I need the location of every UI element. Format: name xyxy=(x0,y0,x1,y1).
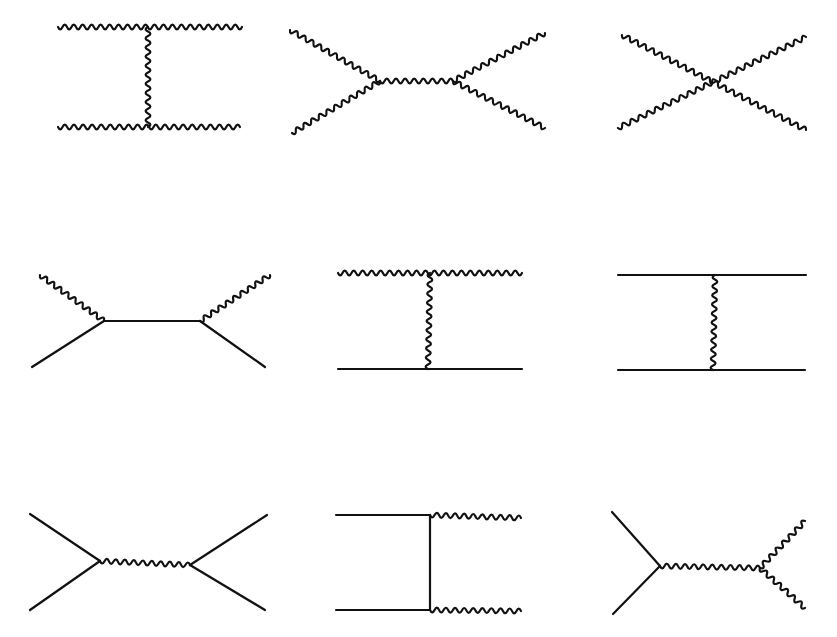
boson-line xyxy=(426,273,433,369)
diagram-t-channel-boson-fermion xyxy=(338,271,522,369)
boson-line xyxy=(58,25,242,30)
fermion-line xyxy=(190,515,267,565)
boson-line xyxy=(146,27,151,127)
boson-line xyxy=(100,559,190,567)
diagram-four-boson-contact xyxy=(618,35,806,130)
boson-line xyxy=(290,30,380,82)
fermion-line xyxy=(200,321,265,367)
boson-line xyxy=(453,81,545,129)
fermion-line xyxy=(30,514,100,561)
boson-line xyxy=(380,79,453,84)
diagram-t-channel-all-bosons xyxy=(58,25,242,130)
diagram-t-channel-fermion-exchange xyxy=(336,513,521,614)
boson-line xyxy=(430,608,521,614)
boson-line xyxy=(200,275,270,322)
boson-line xyxy=(430,513,521,520)
boson-line xyxy=(292,81,380,134)
boson-line xyxy=(40,275,104,321)
diagram-t-channel-two-fermions xyxy=(618,275,806,370)
fermion-line xyxy=(30,561,100,610)
diagram-s-channel-fermion-propagator xyxy=(32,275,270,367)
boson-line xyxy=(660,564,760,571)
fermion-line xyxy=(190,565,265,610)
diagram-s-channel-fermion-pairs xyxy=(30,514,267,610)
feynman-diagram-figure xyxy=(0,0,837,637)
boson-line xyxy=(711,275,718,370)
boson-line xyxy=(760,521,805,569)
boson-line xyxy=(453,33,545,82)
boson-line xyxy=(760,568,805,609)
fermion-line xyxy=(32,321,104,367)
fermion-line xyxy=(612,512,660,566)
diagram-s-channel-all-bosons xyxy=(290,30,545,134)
diagram-triple-gauge-vertex xyxy=(612,512,805,614)
fermion-line xyxy=(613,566,660,614)
